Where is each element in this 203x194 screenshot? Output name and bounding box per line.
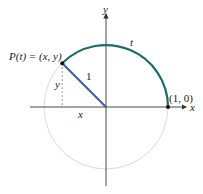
arc-t <box>62 45 168 107</box>
point-one-zero <box>166 105 170 109</box>
y-leg-label: y <box>54 78 60 90</box>
unit-circle-diagram: y x t P(t) = (x, y) 1 y x (1, 0) <box>0 0 203 194</box>
point-p-label: P(t) = (x, y) <box>8 50 62 63</box>
y-axis-label: y <box>102 3 108 15</box>
x-leg-label: x <box>77 108 83 120</box>
arc-length-label: t <box>130 36 134 48</box>
point-one-zero-label: (1, 0) <box>169 92 193 105</box>
radius-line <box>62 63 106 107</box>
radius-label: 1 <box>86 70 92 82</box>
